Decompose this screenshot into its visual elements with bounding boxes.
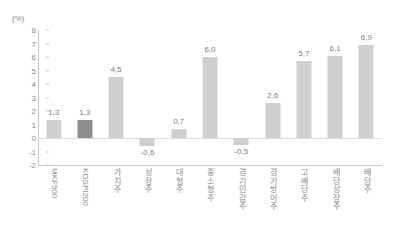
x-axis-label: 경기민감주: [237, 168, 245, 211]
x-axis-label-slot: 대형주: [163, 168, 194, 232]
x-axis-category-labels: MKF500KOSPI200가치주성장주대형주중소형주경기민감주경기방어주고배당…: [38, 168, 382, 232]
x-axis-label-slot: 배당주: [351, 168, 382, 232]
bar-group[interactable]: 1,3: [38, 30, 69, 165]
x-axis-label-slot: 배당성장주: [319, 168, 350, 232]
bar-value-label: 6,9: [361, 33, 372, 42]
bar[interactable]: [265, 103, 280, 138]
x-axis-label: 가치주: [112, 168, 120, 194]
bar-group[interactable]: 2,6: [257, 30, 288, 165]
bar-chart: (%) 876543210-1-2 1,31,34,5-0,60,76,0-0,…: [0, 0, 396, 234]
y-axis-tick-7: 7: [14, 39, 36, 48]
bar-value-label: 1,3: [48, 108, 59, 117]
y-axis-tick-neg1: -1: [14, 147, 36, 156]
bar[interactable]: [109, 77, 124, 138]
bar-value-label: -0,5: [234, 147, 248, 156]
x-axis-label-slot: 고배당주: [288, 168, 319, 232]
x-axis-label: 경기방어주: [269, 168, 277, 211]
x-axis-label-slot: 성장주: [132, 168, 163, 232]
x-axis-label: 대형주: [175, 168, 183, 194]
bar-value-label: 6,0: [204, 45, 215, 54]
bar[interactable]: [171, 129, 186, 138]
x-axis-label-slot: KOSPI200: [69, 168, 100, 232]
bar[interactable]: [140, 138, 155, 146]
bar-value-label: -0,6: [141, 148, 155, 157]
bar-group[interactable]: 5,7: [288, 30, 319, 165]
y-axis-unit-label: (%): [12, 14, 24, 23]
bar-series: 1,31,34,5-0,60,76,0-0,52,65,76,16,9: [38, 30, 382, 165]
x-axis-label-slot: 경기민감주: [226, 168, 257, 232]
bar-value-label: 6,1: [330, 44, 341, 53]
x-axis-label: KOSPI200: [81, 168, 89, 206]
bar-value-label: 5,7: [298, 49, 309, 58]
bar-group[interactable]: 1,3: [69, 30, 100, 165]
bar-group[interactable]: 0,7: [163, 30, 194, 165]
x-axis-label-slot: MKF500: [38, 168, 69, 232]
x-axis-label-slot: 가치주: [101, 168, 132, 232]
x-axis-label: 성장주: [143, 168, 151, 194]
y-axis-tick-4: 4: [14, 80, 36, 89]
bar[interactable]: [46, 120, 61, 138]
x-axis-label: 배당주: [362, 168, 370, 194]
x-axis-label-slot: 중소형주: [194, 168, 225, 232]
bar-value-label: 4,5: [111, 65, 122, 74]
bar-group[interactable]: 4,5: [101, 30, 132, 165]
bar[interactable]: [234, 138, 249, 145]
bar-value-label: 2,6: [267, 91, 278, 100]
bar-group[interactable]: -0,6: [132, 30, 163, 165]
bar-value-label: 0,7: [173, 117, 184, 126]
bar-group[interactable]: 6,1: [319, 30, 350, 165]
y-axis-tick-0: 0: [14, 134, 36, 143]
bar-group[interactable]: 6,0: [194, 30, 225, 165]
y-axis-tick-1: 1: [14, 120, 36, 129]
y-axis-tick-8: 8: [14, 26, 36, 35]
y-axis-tick-neg2: -2: [14, 161, 36, 170]
x-axis-label-slot: 경기방어주: [257, 168, 288, 232]
bar-value-label: 1,3: [79, 108, 90, 117]
x-axis-label: 중소형주: [206, 168, 214, 202]
x-axis-label: 고배당주: [300, 168, 308, 202]
y-axis-tick-2: 2: [14, 107, 36, 116]
x-axis-label: 배당성장주: [331, 168, 339, 211]
bar-group[interactable]: -0,5: [226, 30, 257, 165]
x-axis-label: MKF500: [50, 168, 58, 198]
x-axis-line: [38, 165, 382, 166]
bar[interactable]: [77, 120, 92, 138]
bar[interactable]: [296, 61, 311, 138]
bar[interactable]: [359, 45, 374, 138]
bar[interactable]: [328, 56, 343, 138]
y-axis-tick-6: 6: [14, 53, 36, 62]
y-axis-tick-labels: 876543210-1-2: [10, 30, 36, 165]
y-axis-tick-3: 3: [14, 93, 36, 102]
bar[interactable]: [202, 57, 217, 138]
y-axis-tick-5: 5: [14, 66, 36, 75]
bar-group[interactable]: 6,9: [351, 30, 382, 165]
